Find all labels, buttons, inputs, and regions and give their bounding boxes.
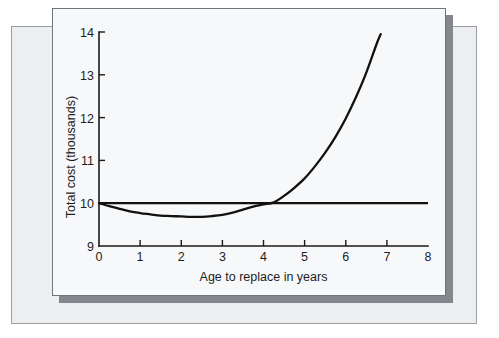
- x-tick-label: 2: [178, 250, 185, 264]
- x-tick-label: 8: [425, 250, 432, 264]
- y-tick-labels: 14 13 12 11 10 9: [80, 26, 94, 254]
- y-tick-label: 12: [80, 112, 94, 126]
- x-tick-label: 1: [137, 250, 144, 264]
- y-axis-ticks: [99, 32, 105, 203]
- y-tick-label: 10: [80, 197, 94, 211]
- chart-card: Total cost (thousands) 14 13 12 11 10 9: [52, 8, 446, 296]
- line-chart: Total cost (thousands) 14 13 12 11 10 9: [53, 9, 447, 297]
- x-tick-label: 5: [301, 250, 308, 264]
- x-axis-title: Age to replace in years: [200, 270, 328, 284]
- y-tick-label: 14: [80, 26, 94, 40]
- figure-root: Total cost (thousands) 14 13 12 11 10 9: [0, 0, 499, 338]
- x-tick-label: 6: [342, 250, 349, 264]
- y-tick-label: 13: [80, 69, 94, 83]
- x-axis-ticks: [140, 240, 387, 246]
- x-tick-label: 4: [260, 250, 267, 264]
- y-axis-title: Total cost (thousands): [64, 96, 78, 218]
- y-tick-label: 11: [81, 154, 94, 168]
- x-tick-label: 7: [383, 250, 390, 264]
- y-tick-label: 9: [87, 240, 94, 254]
- x-tick-labels: 0 1 2 3 4 5 6 7 8: [96, 250, 432, 264]
- total-cost-curve-series: [99, 34, 381, 217]
- x-tick-label: 3: [219, 250, 226, 264]
- x-tick-label: 0: [96, 250, 103, 264]
